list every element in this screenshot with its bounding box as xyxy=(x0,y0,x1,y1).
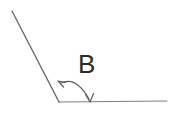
angle-label-b: B xyxy=(78,49,95,79)
angle-figure-svg: B xyxy=(0,0,174,117)
angle-diagram-canvas: B xyxy=(0,0,174,117)
